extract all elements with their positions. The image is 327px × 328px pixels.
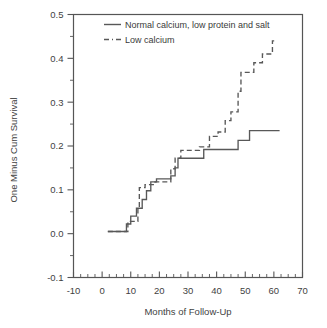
y-tick-label: 0.1 bbox=[50, 184, 63, 195]
x-tick-label: 0 bbox=[99, 285, 104, 296]
x-tick-label: 20 bbox=[154, 285, 165, 296]
x-tick-label: -10 bbox=[67, 285, 81, 296]
x-tick-label: 30 bbox=[183, 285, 194, 296]
y-tick-label: 0.5 bbox=[50, 9, 63, 20]
x-axis-tick-labels: -10010203040506070 bbox=[67, 285, 308, 296]
x-axis-ticks bbox=[74, 272, 303, 278]
chart-figure: -10010203040506070 -0.10.00.10.20.30.40.… bbox=[0, 0, 327, 328]
y-axis-title: One Minus Cum Survival bbox=[8, 97, 19, 202]
data-series-group bbox=[108, 41, 280, 232]
y-axis-ticks bbox=[68, 15, 74, 278]
x-tick-label: 40 bbox=[211, 285, 222, 296]
legend-label-1: Low calcium bbox=[125, 35, 175, 45]
x-tick-label: 70 bbox=[297, 285, 308, 296]
x-tick-label: 60 bbox=[269, 285, 280, 296]
x-axis-title: Months of Follow-Up bbox=[144, 306, 231, 317]
chart-legend: Normal calcium, low protein and salt Low… bbox=[104, 20, 270, 45]
y-tick-label: 0.0 bbox=[50, 228, 63, 239]
legend-label-0: Normal calcium, low protein and salt bbox=[125, 20, 270, 30]
y-tick-label: 0.4 bbox=[50, 53, 63, 64]
x-tick-label: 50 bbox=[240, 285, 251, 296]
y-tick-label: -0.1 bbox=[47, 272, 63, 283]
y-tick-label: 0.2 bbox=[50, 140, 63, 151]
y-tick-label: 0.3 bbox=[50, 97, 63, 108]
series-path-0 bbox=[108, 131, 280, 232]
x-tick-label: 10 bbox=[125, 285, 136, 296]
y-axis-tick-labels: -0.10.00.10.20.30.40.5 bbox=[47, 9, 63, 283]
survival-plot: -10010203040506070 -0.10.00.10.20.30.40.… bbox=[0, 0, 327, 328]
